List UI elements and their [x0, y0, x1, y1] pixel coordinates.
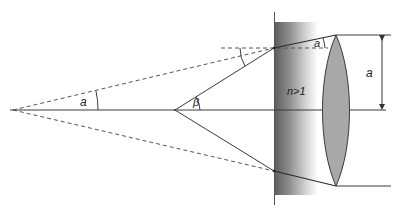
- angle-arc-alpha-left: [96, 91, 98, 110]
- label-beta: β: [192, 96, 200, 108]
- angle-arc-incidence: [240, 48, 245, 66]
- real-ray-upper: [175, 48, 274, 110]
- virtual-ray-lower: [13, 110, 274, 171]
- real-ray-lower: [175, 110, 274, 171]
- angle-arc-alpha-refracted: [323, 38, 325, 48]
- virtual-ray-upper: [13, 48, 274, 110]
- lens: [323, 35, 350, 186]
- refraction-point-upper: [273, 47, 275, 49]
- beta-vertex: [174, 109, 176, 111]
- label-alpha-left: a: [80, 95, 87, 109]
- label-refractive-index: n>1: [287, 85, 306, 97]
- label-height-dimension: a: [366, 66, 373, 80]
- label-alpha-refracted: a: [314, 37, 320, 49]
- refraction-point-lower: [273, 170, 275, 172]
- optics-diagram: a β a n>1 a: [0, 0, 399, 213]
